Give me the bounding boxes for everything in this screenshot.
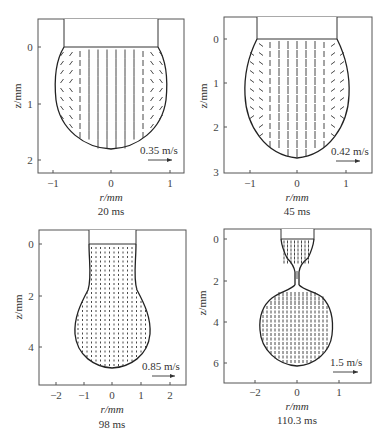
scale-arrow <box>336 159 360 163</box>
x-tick-label: 1 <box>343 177 349 189</box>
nozzle <box>89 230 136 244</box>
x-tick-label: −1 <box>47 177 59 189</box>
y-axis: 0 1 2 3 z/mm <box>197 33 227 178</box>
y-tick-label: 2 <box>27 154 33 166</box>
nozzle <box>64 19 158 47</box>
x-axis-label: r/mm <box>285 400 308 412</box>
pendant-outline <box>281 239 314 285</box>
scale-arrow <box>333 370 358 374</box>
y-tick-label: 1 <box>213 77 219 89</box>
x-tick-label: 1 <box>336 386 342 398</box>
x-axis: −2 −1 0 1 2 r/mm <box>50 382 173 415</box>
y-tick-label: 3 <box>213 166 219 178</box>
panel-45ms: 0.42 m/s −1 0 1 r/mm 0 1 2 3 z/mm 45 ms <box>197 17 372 217</box>
y-tick-label: 0 <box>28 238 34 250</box>
panel-110-3ms: 1.5 m/s −2 0 1 r/mm 0 2 4 6 z/mm 110.3 m… <box>196 229 371 426</box>
panel-caption: 98 ms <box>99 418 126 430</box>
y-tick-label: 6 <box>213 357 219 369</box>
x-axis: −2 0 1 r/mm <box>249 380 342 412</box>
scale-arrow <box>152 374 175 378</box>
scale-label: 0.35 m/s <box>140 144 178 156</box>
scale-label: 0.42 m/s <box>331 145 369 157</box>
y-tick-label: 0 <box>27 41 33 53</box>
y-tick-label: 1 <box>27 98 33 110</box>
scale-label: 1.5 m/s <box>330 356 362 368</box>
x-axis-label: r/mm <box>100 403 123 415</box>
x-tick-label: −1 <box>78 389 90 401</box>
x-tick-label: 0 <box>294 386 300 398</box>
droplet-outline <box>75 244 150 368</box>
x-tick-label: −1 <box>244 177 256 189</box>
y-tick-label: 2 <box>28 290 34 302</box>
x-axis: −1 0 1 r/mm <box>244 170 349 203</box>
y-axis: 0 2 4 z/mm <box>12 238 42 353</box>
nozzle <box>281 229 314 239</box>
x-tick-label: 0 <box>109 389 115 401</box>
panel-caption: 110.3 ms <box>277 414 317 426</box>
x-tick-label: 1 <box>138 389 144 401</box>
velocity-vectors <box>250 41 344 157</box>
x-tick-label: −2 <box>50 389 62 401</box>
y-tick-label: 2 <box>213 121 219 133</box>
y-axis-label: z/mm <box>11 83 23 108</box>
panel-20ms: 0.35 m/s −1 0 1 r/mm 0 1 2 z/mm 20 ms <box>11 19 184 217</box>
y-axis-label: z/mm <box>196 290 208 315</box>
panel-caption: 45 ms <box>284 205 311 217</box>
y-tick-label: 4 <box>28 341 34 353</box>
y-tick-label: 0 <box>213 233 219 245</box>
velocity-vectors <box>263 241 327 364</box>
x-axis-label: r/mm <box>285 191 308 203</box>
panel-caption: 20 ms <box>98 205 125 217</box>
scale-label: 0.85 m/s <box>142 360 180 372</box>
y-axis-label: z/mm <box>197 83 209 108</box>
x-axis: −1 0 1 r/mm <box>47 170 173 203</box>
y-axis-label: z/mm <box>12 294 24 319</box>
x-tick-label: −2 <box>249 386 261 398</box>
y-tick-label: 2 <box>213 275 219 287</box>
panel-98ms: 0.85 m/s −2 −1 0 1 2 r/mm 0 2 4 z/mm <box>12 230 186 430</box>
nozzle <box>257 17 337 39</box>
velocity-vectors <box>61 50 163 149</box>
x-axis-label: r/mm <box>99 191 122 203</box>
x-tick-label: 1 <box>167 177 173 189</box>
y-tick-label: 0 <box>213 33 219 45</box>
y-axis: 0 1 2 z/mm <box>11 41 41 166</box>
y-axis: 0 2 4 6 z/mm <box>196 233 227 369</box>
y-tick-label: 4 <box>213 316 219 328</box>
x-tick-label: 0 <box>108 177 114 189</box>
scale-arrow <box>148 158 172 162</box>
x-tick-label: 2 <box>167 389 173 401</box>
x-tick-label: 0 <box>294 177 300 189</box>
figure: 0.35 m/s −1 0 1 r/mm 0 1 2 z/mm 20 ms <box>0 0 386 443</box>
